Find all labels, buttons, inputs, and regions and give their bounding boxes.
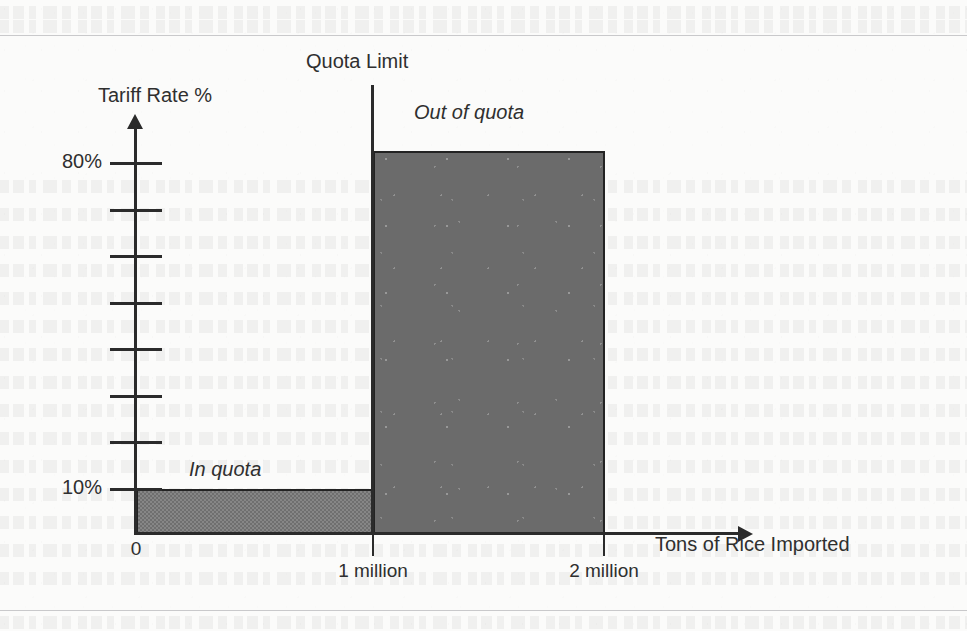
out-of-quota-label: Out of quota <box>414 101 524 124</box>
y-tick-label-80: 80% <box>32 150 102 173</box>
y-axis-tick <box>110 302 162 305</box>
y-axis-tick <box>110 488 162 491</box>
y-axis-tick <box>110 162 162 165</box>
y-tick-label-10: 10% <box>32 476 102 499</box>
x-tick-label-1-million: 1 million <box>318 560 428 582</box>
y-axis-tick <box>110 441 162 444</box>
y-axis-tick <box>110 209 162 212</box>
y-axis-arrow-icon <box>127 114 143 129</box>
tariff-rate-quota-chart: Quota Limit Tariff Rate % 80% 10% Tons o… <box>0 0 967 631</box>
x-axis-tick <box>372 534 374 556</box>
x-axis-title: Tons of Rice Imported <box>655 533 850 556</box>
scanned-page: Quota Limit Tariff Rate % 80% 10% Tons o… <box>0 0 967 631</box>
y-axis-line <box>134 126 137 535</box>
y-axis-tick <box>110 255 162 258</box>
x-axis-line <box>136 532 741 535</box>
x-tick-label-2-million: 2 million <box>549 560 659 582</box>
bar-out-of-quota <box>373 151 605 534</box>
quota-limit-line <box>371 85 374 534</box>
y-axis-tick <box>110 348 162 351</box>
bar-in-quota <box>136 489 374 534</box>
x-axis-tick <box>603 534 605 556</box>
quota-limit-label: Quota Limit <box>306 50 408 73</box>
in-quota-label: In quota <box>189 458 261 481</box>
y-axis-title: Tariff Rate % <box>98 84 212 107</box>
x-tick-label-origin: 0 <box>116 538 156 560</box>
y-axis-tick <box>110 395 162 398</box>
